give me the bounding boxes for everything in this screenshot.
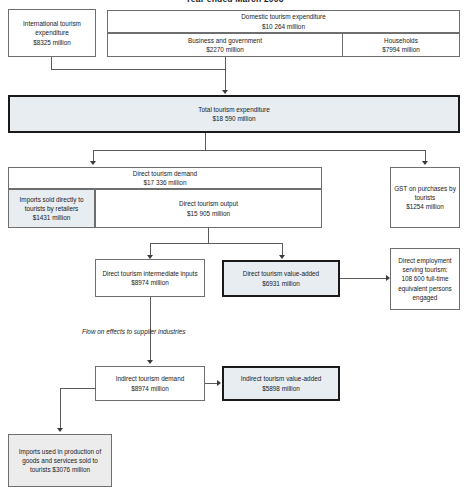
direct-value-added-label: Direct tourism value-added bbox=[243, 269, 319, 278]
connector-to-total bbox=[225, 69, 226, 92]
node-imports-used-in-production: Imports used in production of goods and … bbox=[8, 434, 112, 487]
international-value: $8325 million bbox=[11, 38, 93, 47]
flow-on-effects-note: Flow on effects to supplier industries bbox=[82, 328, 185, 335]
direct-employment-label: Direct employment serving tourism: bbox=[393, 256, 457, 275]
arrow-to-imports-production bbox=[57, 428, 63, 432]
intermediate-inputs-value: $8974 million bbox=[102, 278, 197, 287]
domestic-value: $10 264 million bbox=[241, 22, 326, 31]
domestic-label: Domestic tourism expenditure bbox=[241, 12, 326, 21]
arrow-to-indirect-value-added bbox=[217, 380, 221, 386]
node-indirect-tourism-demand: Indirect tourism demand $8974 million bbox=[95, 366, 205, 401]
gst-label: GST on purchases by tourists bbox=[393, 184, 457, 203]
node-indirect-tourism-value-added: Indirect tourism value-added $5898 milli… bbox=[222, 366, 340, 401]
node-imports-sold-by-retailers: Imports sold directly to tourists by ret… bbox=[8, 189, 95, 228]
direct-value-added-value: $6931 million bbox=[243, 279, 319, 288]
connector-horizontal-join bbox=[51, 69, 225, 70]
connector-indirect-to-imports-v bbox=[60, 388, 61, 430]
connector-total-split bbox=[93, 150, 426, 151]
tourism-satellite-account-flowchart: Year ended March 2003 International tour… bbox=[0, 0, 469, 489]
arrow-to-gst bbox=[422, 161, 428, 165]
indirect-value-added-label: Indirect tourism value-added bbox=[241, 374, 322, 383]
node-international-tourism-expenditure: International tourism expenditure $8325 … bbox=[8, 9, 96, 57]
arrow-to-direct-demand bbox=[90, 161, 96, 165]
connector-total-down bbox=[205, 133, 206, 151]
total-expenditure-value: $18 590 million bbox=[198, 114, 269, 123]
node-direct-tourism-output: Direct tourism output $15 905 million bbox=[95, 189, 322, 228]
arrow-to-indirect-demand bbox=[147, 360, 153, 364]
imports-retailers-label: Imports sold directly to tourists by ret… bbox=[11, 195, 92, 214]
node-direct-tourism-demand: Direct tourism demand $17 336 million bbox=[8, 167, 322, 189]
imports-retailers-value: $1431 million bbox=[11, 213, 92, 222]
node-direct-intermediate-inputs: Direct tourism intermediate inputs $8974… bbox=[95, 259, 205, 297]
total-expenditure-label: Total tourism expenditure bbox=[198, 105, 269, 114]
connector-output-down bbox=[208, 228, 209, 244]
direct-output-value: $15 905 million bbox=[179, 209, 238, 218]
node-households: Households $7994 million bbox=[342, 33, 460, 57]
node-gst-on-purchases: GST on purchases by tourists $1254 milli… bbox=[390, 167, 460, 228]
chart-title: Year ended March 2003 bbox=[0, 0, 469, 4]
imports-production-label: Imports used in production of goods and … bbox=[11, 447, 109, 475]
direct-output-label: Direct tourism output bbox=[179, 199, 238, 208]
households-value: $7994 million bbox=[382, 45, 420, 54]
indirect-value-added-value: $5898 million bbox=[241, 384, 322, 393]
node-business-and-government: Business and government $2270 million bbox=[107, 33, 343, 57]
business-government-label: Business and government bbox=[188, 36, 262, 45]
node-domestic-tourism-expenditure: Domestic tourism expenditure $10 264 mil… bbox=[107, 10, 460, 33]
node-total-tourism-expenditure: Total tourism expenditure $18 590 millio… bbox=[8, 95, 460, 133]
connector-domestic-down bbox=[225, 57, 226, 69]
node-direct-employment: Direct employment serving tourism: 108 6… bbox=[390, 248, 460, 310]
indirect-demand-value: $8974 million bbox=[116, 384, 185, 393]
arrow-to-total bbox=[222, 90, 228, 94]
direct-demand-value: $17 336 million bbox=[133, 178, 197, 187]
arrow-to-direct-value-added bbox=[279, 255, 285, 259]
node-direct-tourism-value-added: Direct tourism value-added $6931 million bbox=[222, 260, 340, 297]
connector-output-split bbox=[150, 243, 282, 244]
direct-employment-value: 108 600 full-time equivalent persons eng… bbox=[393, 274, 457, 302]
intermediate-inputs-label: Direct tourism intermediate inputs bbox=[102, 269, 197, 278]
international-label: International tourism expenditure bbox=[11, 19, 93, 38]
connector-value-added-to-employment bbox=[340, 278, 387, 279]
business-government-value: $2270 million bbox=[188, 45, 262, 54]
connector-indirect-to-imports-h bbox=[60, 388, 96, 389]
households-label: Households bbox=[382, 36, 420, 45]
gst-value: $1254 million bbox=[393, 202, 457, 211]
direct-demand-label: Direct tourism demand bbox=[133, 169, 197, 178]
indirect-demand-label: Indirect tourism demand bbox=[116, 374, 185, 383]
